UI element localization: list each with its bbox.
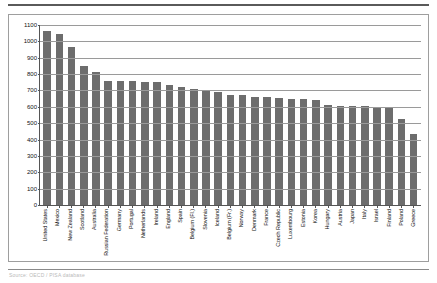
x-axis-label: Poland [399, 209, 404, 226]
x-axis-label-slot: Australia [89, 209, 101, 269]
x-axis-label: Hungary [326, 209, 331, 229]
x-axis-label-slot: Austria [334, 209, 346, 269]
x-axis-label-slot: Portugal [126, 209, 138, 269]
source-note: Source: OECD / PISA database [9, 272, 85, 278]
x-axis-label-slot: England [163, 209, 175, 269]
x-axis-label: Spain [178, 209, 183, 223]
bar [92, 72, 100, 205]
bar [56, 34, 64, 205]
bar [166, 85, 174, 205]
x-axis-tick [359, 205, 371, 208]
y-axis-tick-label: 100 [27, 186, 37, 192]
x-axis-tick-mark [267, 205, 268, 208]
x-axis-tick [102, 205, 114, 208]
x-axis-label: England [166, 209, 171, 229]
bar-slot [359, 25, 371, 205]
chart-frame: 010020030040050060070080090010001100 Uni… [8, 14, 429, 262]
y-axis-tick-label: 400 [27, 137, 37, 143]
x-axis-tick [163, 205, 175, 208]
bar-slot [346, 25, 358, 205]
x-axis-tick-mark [59, 205, 60, 208]
y-axis-tick-mark [38, 123, 40, 124]
x-axis-tick-mark [291, 205, 292, 208]
x-axis-label-slot: United States [40, 209, 52, 269]
bar [178, 87, 186, 205]
bar-slot [285, 25, 297, 205]
gridline [40, 74, 421, 75]
y-axis-tick-mark [38, 41, 40, 42]
x-axis-label-slot: Hungary [322, 209, 334, 269]
y-axis-tick-label: 900 [27, 55, 37, 61]
x-axis-tick-mark [254, 205, 255, 208]
x-axis-label-slot: Belgium (Fr.) [224, 209, 236, 269]
x-axis-tick [237, 205, 249, 208]
bar-slot [127, 25, 139, 205]
x-axis-tick [334, 205, 346, 208]
bar-slot [334, 25, 346, 205]
gridline [40, 107, 421, 108]
x-axis-label: Finland [387, 209, 392, 227]
x-axis-label-slot: Japan [347, 209, 359, 269]
x-axis-label: Japan [350, 209, 355, 224]
x-axis-tick [273, 205, 285, 208]
bar [398, 119, 406, 205]
x-axis-tick-mark [413, 205, 414, 208]
bar-slot [65, 25, 77, 205]
x-axis-label: Korea [313, 209, 318, 223]
x-axis-label-slot: Finland [383, 209, 395, 269]
x-axis-tick [408, 205, 420, 208]
x-axis-tick [249, 205, 261, 208]
x-axis-label-slot: Spain [175, 209, 187, 269]
x-axis-tick-mark [120, 205, 121, 208]
x-axis-ticks [40, 205, 421, 208]
y-axis-tick-label: 300 [27, 153, 37, 159]
x-axis-label-slot: Netherlands [138, 209, 150, 269]
x-axis-tick-mark [377, 205, 378, 208]
gridline [40, 172, 421, 173]
x-axis-tick [285, 205, 297, 208]
x-axis-label: Belgium (Fr.) [227, 209, 232, 240]
bar [153, 82, 161, 205]
y-axis-tick-mark [38, 172, 40, 173]
x-axis-tick [200, 205, 212, 208]
x-axis-tick-mark [83, 205, 84, 208]
bar-slot [408, 25, 420, 205]
x-axis-tick [224, 205, 236, 208]
x-axis-label-slot: Italy [359, 209, 371, 269]
gridline [40, 25, 421, 26]
x-axis-label-slot: Czech Republic [273, 209, 285, 269]
x-axis-label-slot: Russian Federation [101, 209, 113, 269]
bar-slot [212, 25, 224, 205]
x-axis-tick-mark [181, 205, 182, 208]
y-axis-tick-label: 800 [27, 71, 37, 77]
bar-slot [53, 25, 65, 205]
y-axis-tick-label: 0 [34, 202, 37, 208]
bar-slot [273, 25, 285, 205]
y-axis-tick-label: 1100 [24, 22, 37, 28]
y-axis-tick-mark [38, 189, 40, 190]
bar-slot [139, 25, 151, 205]
x-axis-label: Estonia [301, 209, 306, 227]
x-axis-tick [212, 205, 224, 208]
bar-slot [78, 25, 90, 205]
x-axis-label: Germany [117, 209, 122, 231]
bar-slot [249, 25, 261, 205]
x-axis-tick-mark [108, 205, 109, 208]
x-axis-label: France [264, 209, 269, 226]
y-axis-tick-mark [38, 156, 40, 157]
bar-slot [383, 25, 395, 205]
bar-series [40, 25, 421, 205]
x-axis-label: Portugal [129, 209, 134, 229]
y-axis-tick-label: 600 [27, 104, 37, 110]
x-axis-label: Czech Republic [276, 209, 281, 247]
x-axis-tick [53, 205, 65, 208]
x-axis-label-slot: Greece [408, 209, 420, 269]
x-axis-tick [90, 205, 102, 208]
bar-slot [102, 25, 114, 205]
x-axis-tick [298, 205, 310, 208]
bar-slot [261, 25, 273, 205]
x-axis-tick [383, 205, 395, 208]
y-axis-tick-mark [38, 107, 40, 108]
x-axis-label-slot: Luxembourg [285, 209, 297, 269]
bar-slot [188, 25, 200, 205]
